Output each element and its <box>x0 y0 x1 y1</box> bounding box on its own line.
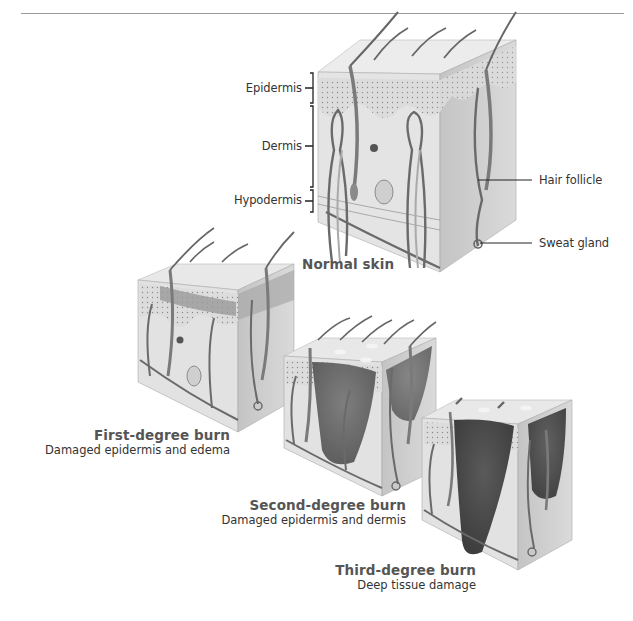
second-degree-title: Second-degree burn <box>180 497 406 513</box>
first-degree-title: First-degree burn <box>40 427 230 443</box>
skin-illustrations <box>0 0 633 621</box>
label-dermis: Dermis <box>240 139 302 153</box>
first-degree-block <box>138 228 294 432</box>
third-degree-title: Third-degree burn <box>330 562 476 578</box>
label-epidermis: Epidermis <box>240 81 302 95</box>
second-degree-description: Damaged epidermis and dermis <box>180 513 406 527</box>
label-hypodermis: Hypodermis <box>230 193 302 207</box>
normal-skin-title: Normal skin <box>302 256 394 272</box>
normal-skin-block <box>318 12 516 272</box>
first-degree-description: Damaged epidermis and edema <box>20 443 230 457</box>
third-degree-block <box>422 398 572 570</box>
layer-brackets <box>305 73 313 212</box>
label-hair-follicle: Hair follicle <box>539 173 602 187</box>
label-sweat-gland: Sweat gland <box>539 236 609 250</box>
second-degree-block <box>284 316 436 496</box>
third-degree-description: Deep tissue damage <box>330 578 476 592</box>
